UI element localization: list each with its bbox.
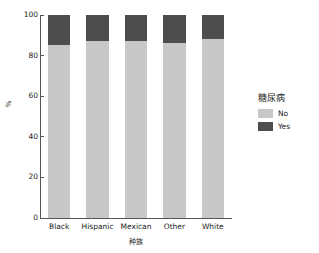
bar-segment-no [163,43,185,218]
plot-area [40,15,232,218]
bar-segment-yes [163,15,185,43]
bar-segment-yes [48,15,70,45]
y-tick-label: 0 [16,213,38,223]
bar-segment-yes [86,15,108,41]
stacked-bar [48,15,70,218]
stacked-bar [86,15,108,218]
legend-label: Yes [278,122,290,131]
stacked-bar [125,15,147,218]
y-tick-label: 40 [16,132,38,142]
legend-items: NoYes [258,107,316,132]
stacked-bar [163,15,185,218]
legend-label: No [278,109,288,118]
x-tick-label: Black [40,221,78,232]
stacked-bar [202,15,224,218]
x-tick-label: White [194,221,232,232]
legend-swatch [258,109,273,118]
y-tick-label: 80 [16,51,38,61]
y-axis-title: % [5,97,13,111]
y-tick-label: 20 [16,172,38,182]
y-tick-label: 100 [16,10,38,20]
legend-item[interactable]: Yes [258,120,316,132]
x-axis-line [40,218,232,219]
legend-swatch [258,122,273,131]
legend-item[interactable]: No [258,107,316,119]
chart-figure: % 020406080100 BlackHispanicMexicanOther… [0,0,319,253]
y-tick-label: 60 [16,91,38,101]
x-axis-title: 种族 [40,236,232,246]
x-tick-label: Mexican [117,221,155,232]
x-tick-label: Other [155,221,193,232]
bar-segment-no [86,41,108,218]
legend: 糖尿病 NoYes [258,92,316,133]
bar-segment-no [202,39,224,218]
bar-segment-yes [202,15,224,39]
bar-segment-no [125,41,147,218]
x-tick-label: Hispanic [78,221,116,232]
legend-title: 糖尿病 [258,92,316,104]
bar-segment-yes [125,15,147,41]
bar-segment-no [48,45,70,218]
